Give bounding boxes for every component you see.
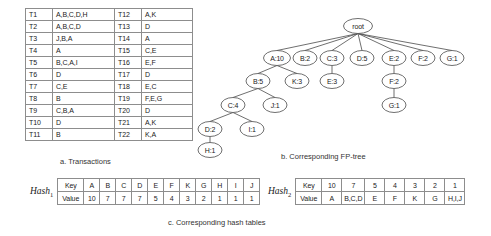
hash1-table: KeyABCDEFKGHIJValue107775432111 xyxy=(57,178,260,205)
transaction-items-left: J,B,A xyxy=(53,32,115,44)
hash1-value-row: Value107775432111 xyxy=(58,192,260,205)
hash2-table-body: Key10754321ValueAB,C,DEFKGH,I,J xyxy=(296,179,465,205)
fp-tree-node-j1: J:1 xyxy=(263,98,287,113)
fp-tree-node-label: B:2 xyxy=(300,55,310,62)
hash2-name-text: Hash xyxy=(268,186,288,196)
hash2-key-header: Key xyxy=(296,179,322,192)
fp-tree-edge-a10-k3 xyxy=(277,66,297,74)
transaction-items-left: D xyxy=(53,68,115,80)
transaction-id-right: T19 xyxy=(115,92,142,104)
transaction-id-right: T14 xyxy=(115,32,142,44)
transaction-items-left: C,E xyxy=(53,80,115,92)
transaction-items-left: D xyxy=(53,116,115,128)
fp-tree-edge-root-d5 xyxy=(358,34,362,51)
hash2-key-cell-1: 7 xyxy=(342,179,365,192)
transaction-id-right: T13 xyxy=(115,20,142,32)
hash2-value-row: ValueAB,C,DEFKGH,I,J xyxy=(296,192,465,205)
hash1-key-cell-1: B xyxy=(100,179,116,192)
transaction-items-left: B,C,A,I xyxy=(53,56,115,68)
hash1-key-cell-9: I xyxy=(228,179,244,192)
fp-tree-node-label: B:5 xyxy=(253,78,263,85)
hash2-table: Key10754321ValueAB,C,DEFKGH,I,J xyxy=(295,178,465,205)
hash2-name: Hash2 xyxy=(268,186,291,198)
fp-tree-node-d2: D:2 xyxy=(198,122,222,137)
hash1-key-cell-3: D xyxy=(132,179,148,192)
fp-tree-node-label: F:2 xyxy=(389,78,399,85)
transaction-id-left: T8 xyxy=(26,92,53,104)
hash1-value-cell-5: 4 xyxy=(164,192,180,205)
transaction-id-left: T9 xyxy=(26,104,53,116)
fp-tree-node-d5: D:5 xyxy=(350,51,374,66)
transaction-id-right: T18 xyxy=(115,80,142,92)
fp-tree-edge-b5-j1 xyxy=(258,89,275,98)
hash2-value-cell-1: B,C,D xyxy=(342,192,365,205)
caption-hash-tables: c. Corresponding hash tables xyxy=(168,218,266,227)
transaction-id-left: T1 xyxy=(26,9,53,21)
transaction-id-right: T20 xyxy=(115,104,142,116)
fp-tree-diagram: rootA:10B:2C:3D:5E:2F:2G:1B:5K:3E:3F:2C:… xyxy=(180,5,491,155)
fp-tree-node-label: A:10 xyxy=(270,55,284,62)
hash2-value-cell-0: A xyxy=(322,192,342,205)
fp-tree-node-label: K:3 xyxy=(292,78,302,85)
table-row: T6DT17D xyxy=(26,68,193,80)
fp-tree-node-label: H:1 xyxy=(205,147,216,154)
fp-tree-node-e2: E:2 xyxy=(382,51,406,66)
transaction-id-left: T3 xyxy=(26,32,53,44)
transactions-table-body: T1A,B,C,D,HT12A,KT2A,B,C,DT13DT3J,B,AT14… xyxy=(26,9,193,141)
transaction-id-left: T4 xyxy=(26,44,53,56)
fp-tree-node-label: G:1 xyxy=(389,102,400,109)
fp-tree-node-k3: K:3 xyxy=(285,74,309,89)
hash1-value-cell-2: 7 xyxy=(116,192,132,205)
hash1-value-cell-3: 7 xyxy=(132,192,148,205)
hash1-value-cell-7: 2 xyxy=(196,192,212,205)
hash1-key-cell-2: C xyxy=(116,179,132,192)
transaction-id-left: T11 xyxy=(26,128,53,140)
fp-tree-edge-root-f2 xyxy=(358,34,423,51)
transaction-items-left: C,B,A xyxy=(53,104,115,116)
hash1-value-cell-6: 3 xyxy=(180,192,196,205)
hash1-value-cell-0: 10 xyxy=(84,192,100,205)
hash1-key-cell-0: A xyxy=(84,179,100,192)
transaction-id-left: T6 xyxy=(26,68,53,80)
fp-tree-edge-b5-c4 xyxy=(233,89,258,98)
fp-tree-node-label: J:1 xyxy=(271,102,280,109)
hash2-subscript: 2 xyxy=(288,190,291,197)
hash2-key-cell-0: 10 xyxy=(322,179,342,192)
fp-tree-node-label: G:1 xyxy=(447,55,458,62)
table-row: T8BT19F,E,G xyxy=(26,92,193,104)
caption-fp-tree: b. Corresponding FP-tree xyxy=(281,152,366,161)
hash1-key-cell-7: G xyxy=(196,179,212,192)
transaction-id-right: T15 xyxy=(115,44,142,56)
fp-tree-node-f2: F:2 xyxy=(411,51,435,66)
transaction-id-right: T16 xyxy=(115,56,142,68)
hash1-key-cell-5: F xyxy=(164,179,180,192)
hash2-key-cell-5: 2 xyxy=(425,179,445,192)
fp-tree-node-e3: E:3 xyxy=(320,74,344,89)
fp-tree-node-g1b: G:1 xyxy=(382,98,406,113)
hash2-key-cell-6: 1 xyxy=(445,179,465,192)
hash1-key-cell-10: J xyxy=(244,179,260,192)
transaction-id-left: T7 xyxy=(26,80,53,92)
fp-tree-node-g1: G:1 xyxy=(440,51,464,66)
hash1-value-cell-8: 1 xyxy=(212,192,228,205)
fp-tree-node-label: I:1 xyxy=(248,126,255,133)
hash1-block: Hash1 KeyABCDEFKGHIJValue107775432111 xyxy=(30,178,260,205)
fp-tree-edge-root-e2 xyxy=(358,34,394,51)
hash2-key-cell-4: 3 xyxy=(405,179,425,192)
table-row: T10DT21A,K xyxy=(26,116,193,128)
fp-tree-node-label: D:2 xyxy=(205,126,216,133)
fp-tree-node-b2: B:2 xyxy=(293,51,317,66)
hash1-value-cell-1: 7 xyxy=(100,192,116,205)
fp-tree-node-b5: B:5 xyxy=(246,74,270,89)
transaction-items-left: B xyxy=(53,128,115,140)
table-row: T4AT15C,E xyxy=(26,44,193,56)
table-row: T5B,C,A,IT16E,F xyxy=(26,56,193,68)
transaction-id-right: T22 xyxy=(115,128,142,140)
hash1-key-cell-8: H xyxy=(212,179,228,192)
table-row: T11BT22K,A xyxy=(26,128,193,140)
hash2-value-cell-3: F xyxy=(385,192,405,205)
hash2-value-cell-4: K xyxy=(405,192,425,205)
transactions-table: T1A,B,C,D,HT12A,KT2A,B,C,DT13DT3J,B,AT14… xyxy=(25,8,193,141)
hash1-value-cell-10: 1 xyxy=(244,192,260,205)
fp-tree-node-label: D:5 xyxy=(357,55,368,62)
